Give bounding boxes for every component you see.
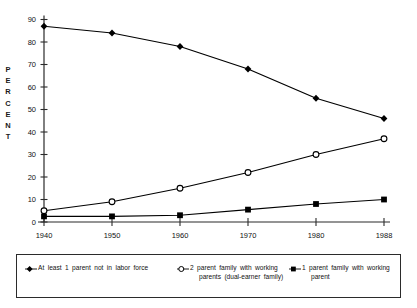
y-axis-tick-label: 50 xyxy=(18,105,36,114)
y-axis-tick-label: 90 xyxy=(18,15,36,24)
legend-label-line1: At least 1 parent not in labor force xyxy=(38,263,175,272)
data-point-filled-diamond xyxy=(245,66,252,73)
data-point-filled-square xyxy=(245,207,251,213)
data-point-open-circle xyxy=(245,170,251,176)
legend-label-line2: parents (dual-earner family) xyxy=(190,272,285,281)
data-point-filled-square xyxy=(313,201,319,207)
x-axis-tick-label: 1940 xyxy=(27,231,61,240)
data-point-filled-square xyxy=(381,197,387,203)
data-point-open-circle xyxy=(313,152,319,158)
chart-legend: At least 1 parent not in labor force 2 p… xyxy=(16,254,401,298)
series-line xyxy=(44,200,384,217)
chart-series-layer xyxy=(41,23,388,219)
data-point-filled-square xyxy=(109,213,115,219)
y-axis-tick-label: 30 xyxy=(18,150,36,159)
y-axis-title-letter: E xyxy=(2,109,14,120)
y-axis-tick-label: 60 xyxy=(18,83,36,92)
y-axis-title-letter: R xyxy=(2,86,14,97)
data-point-filled-diamond xyxy=(313,95,320,102)
x-axis-tick-label: 1988 xyxy=(367,231,401,240)
y-axis-tick-label: 40 xyxy=(18,128,36,137)
data-point-filled-diamond xyxy=(109,30,116,37)
data-point-filled-square xyxy=(177,212,183,218)
filled-diamond-icon xyxy=(25,265,37,273)
data-point-filled-diamond xyxy=(381,115,388,122)
data-point-filled-diamond xyxy=(177,43,184,50)
data-point-open-circle xyxy=(109,199,115,205)
series-2 xyxy=(41,136,387,214)
chart-svg xyxy=(0,0,417,248)
series-line xyxy=(44,26,384,118)
data-point-filled-diamond xyxy=(41,23,48,30)
chart-axes xyxy=(38,16,390,227)
chart-figure: PERCENT 0102030405060708090 194019501960… xyxy=(0,0,417,308)
series-line xyxy=(44,139,384,211)
filled-square-icon xyxy=(289,265,301,273)
x-axis-tick-label: 1970 xyxy=(231,231,265,240)
y-axis-title-letter: T xyxy=(2,131,14,142)
data-point-open-circle xyxy=(381,136,387,142)
legend-item-parent-not-in-labor-force: At least 1 parent not in labor force xyxy=(25,263,175,272)
y-axis-tick-label: 20 xyxy=(18,173,36,182)
legend-item-single-parent-working: 1 parent family with working parent xyxy=(289,263,397,282)
y-axis-title-letter: C xyxy=(2,98,14,109)
y-axis-title-letter: P xyxy=(2,64,14,75)
x-axis-tick-label: 1960 xyxy=(163,231,197,240)
x-axis-tick-label: 1980 xyxy=(299,231,333,240)
plot-area xyxy=(0,0,417,248)
open-circle-icon xyxy=(177,265,189,273)
y-axis-title-letter: N xyxy=(2,120,14,131)
y-axis-tick-label: 10 xyxy=(18,195,36,204)
y-axis-tick-label: 70 xyxy=(18,60,36,69)
y-axis-tick-label: 0 xyxy=(18,218,36,227)
legend-label-line2: parent xyxy=(302,272,397,281)
legend-item-dual-earner-family: 2 parent family with working parents (du… xyxy=(177,263,285,282)
series-3 xyxy=(41,197,387,220)
series-1 xyxy=(41,23,388,122)
y-axis-title-letter: E xyxy=(2,75,14,86)
data-point-open-circle xyxy=(41,208,47,214)
y-axis-title: PERCENT xyxy=(2,64,14,142)
y-axis-tick-label: 80 xyxy=(18,38,36,47)
data-point-open-circle xyxy=(177,185,183,191)
legend-label-line1: 1 parent family with working xyxy=(302,263,397,272)
legend-label-line1: 2 parent family with working xyxy=(190,263,285,272)
data-point-filled-square xyxy=(41,213,47,219)
x-axis-tick-label: 1950 xyxy=(95,231,129,240)
